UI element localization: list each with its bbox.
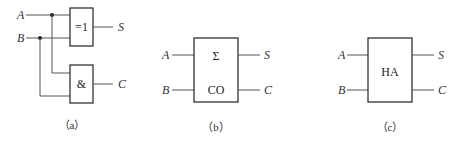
sigma-symbol: Σ [213,49,220,63]
caption-a: （a） [59,119,86,131]
input-b-label: B [338,83,346,97]
ha-label: HA [381,65,399,79]
xor-gate-symbol: =1 [75,20,88,34]
output-c-label: C [264,83,273,97]
caption-c: （c） [377,121,404,133]
input-a-label: A [337,48,346,62]
input-a-label: A [161,48,170,62]
input-b-label: B [17,31,25,45]
half-adder-diagram: A B =1 S & C （a） A B Σ CO S [0,0,458,142]
output-s-label: S [264,48,270,62]
figure-b-sum-block: A B Σ CO S C （b） [161,38,273,133]
wire-b-to-and [40,38,70,96]
caption-b: （b） [202,121,230,133]
figure-c-ha-block: A B HA S C （c） [337,38,447,133]
wire-a-to-and [52,15,70,73]
output-s-label: S [438,48,444,62]
and-gate-symbol: & [77,77,87,91]
output-s-label: S [118,20,124,34]
carry-out-symbol: CO [208,83,225,97]
output-c-label: C [438,83,447,97]
input-b-label: B [162,83,170,97]
output-c-label: C [118,77,127,91]
figure-a-gate-circuit: A B =1 S & C （a） [16,8,127,131]
input-a-label: A [16,8,25,22]
